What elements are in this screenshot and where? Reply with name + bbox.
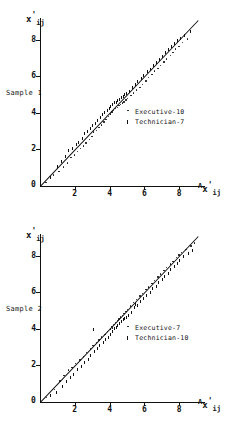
data-point: [141, 77, 142, 80]
data-point: [130, 95, 131, 96]
y-axis-tick-label: 6: [31, 72, 36, 80]
data-point: [95, 122, 96, 125]
data-point: [162, 278, 163, 281]
data-point: [72, 147, 73, 150]
data-point: [73, 373, 74, 376]
data-point: [172, 52, 173, 53]
data-point: [151, 74, 152, 75]
data-point: [111, 111, 112, 112]
x-axis-title: Ax'ij: [198, 398, 221, 413]
y-axis-tick: [36, 149, 41, 150]
data-point: [174, 265, 175, 268]
data-point: [134, 306, 135, 309]
chart-panel-sample-1: x'ij Ax'ij Sample 1 0 24682468 Executive…: [0, 0, 234, 215]
x-axis-tick-label: 8: [177, 406, 182, 414]
data-point: [154, 70, 155, 71]
data-point: [97, 119, 98, 122]
x-axis-tick-label: 4: [107, 190, 112, 198]
data-point: [65, 155, 66, 158]
data-point: [130, 305, 131, 306]
data-point: [177, 39, 178, 42]
data-point: [178, 46, 179, 47]
data-point: [148, 77, 149, 78]
data-point: [61, 160, 62, 163]
data-point: [145, 80, 146, 81]
data-point: [152, 287, 153, 290]
data-point: [98, 127, 99, 128]
data-point: [136, 89, 137, 90]
data-point: [185, 249, 186, 250]
data-point: [139, 87, 140, 88]
data-point: [133, 92, 134, 93]
data-point: [137, 304, 138, 307]
legend-item-label: Technician-7: [135, 118, 184, 126]
data-point: [178, 254, 179, 255]
data-point: [50, 394, 51, 397]
data-point: [68, 149, 69, 152]
data-point: [46, 397, 47, 398]
data-point: [168, 272, 169, 275]
data-point: [123, 313, 124, 314]
y-axis-tick-label: 4: [31, 325, 36, 333]
data-point: [129, 90, 130, 93]
data-point: [102, 113, 103, 116]
data-point: [80, 148, 81, 149]
data-point: [150, 68, 151, 71]
data-point: [150, 291, 151, 294]
data-point: [123, 101, 124, 102]
data-point: [143, 297, 144, 300]
data-point: [182, 42, 183, 43]
x-axis-title-subscript: ij: [212, 405, 220, 413]
data-point: [158, 281, 159, 284]
data-point: [97, 347, 98, 350]
data-point: [125, 99, 126, 100]
data-point: [162, 55, 163, 58]
data-point: [118, 318, 119, 319]
y-axis-tick: [36, 256, 41, 257]
data-point: [99, 344, 100, 347]
data-point: [157, 68, 158, 69]
y-axis-tick: [36, 365, 41, 366]
legend-item-label: Executive-7: [135, 324, 180, 332]
data-point: [101, 124, 102, 125]
data-point: [112, 327, 113, 328]
data-point: [82, 137, 83, 140]
y-axis-tick: [36, 40, 41, 41]
data-point: [104, 334, 105, 335]
data-point: [172, 261, 173, 262]
data-point: [137, 80, 138, 83]
legend-tick-marker-icon: [127, 336, 128, 340]
data-point: [74, 154, 75, 155]
chart-panel-sample-2: x'ij Ax'ij Sample 2 0 24682468 Executive…: [0, 216, 234, 431]
data-point: [63, 166, 64, 167]
data-point: [87, 130, 88, 133]
data-point: [105, 338, 106, 341]
data-point: [131, 311, 132, 314]
data-point: [183, 255, 184, 258]
data-point: [79, 359, 80, 360]
x-axis-title-subscript: ij: [212, 189, 220, 197]
data-point: [92, 345, 93, 346]
data-point: [70, 157, 71, 158]
data-point: [117, 107, 118, 108]
x-axis-line: [40, 402, 205, 403]
y-axis-tick-label: 6: [31, 288, 36, 296]
origin-label: 0: [31, 181, 36, 189]
data-point: [174, 42, 175, 45]
data-point: [90, 354, 91, 357]
data-point: [168, 48, 169, 51]
data-point: [166, 58, 167, 59]
legend-dot-marker-icon: [127, 326, 129, 328]
data-point: [93, 328, 94, 331]
data-point: [110, 328, 111, 329]
data-point: [156, 61, 157, 64]
data-point: [135, 83, 136, 86]
data-point: [110, 113, 111, 114]
legend-dot-marker-icon: [127, 110, 129, 112]
data-point: [70, 376, 71, 379]
data-point: [108, 336, 109, 339]
data-point: [192, 249, 193, 252]
data-point: [132, 86, 133, 89]
data-point: [120, 104, 121, 105]
x-axis-tick-label: 6: [142, 406, 147, 414]
